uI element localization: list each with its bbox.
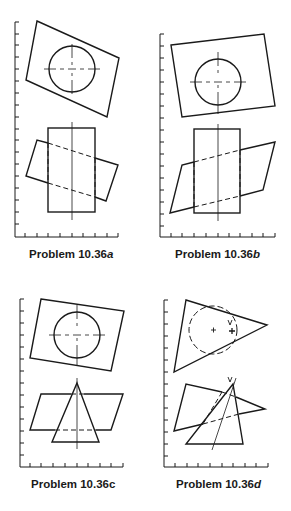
- panel-b-front-view: [170, 124, 275, 221]
- panel-b: [160, 34, 275, 237]
- panel-a-front-view: [26, 122, 118, 220]
- caption-c: Problem 10.36c: [31, 478, 115, 490]
- panel-d-axes: [164, 300, 268, 467]
- caption-c-prefix: Problem 10.36: [31, 478, 109, 490]
- panel-d: [164, 300, 268, 467]
- panel-a-top-view: [26, 21, 119, 117]
- panel-b-top-view: [171, 34, 275, 117]
- panel-c: [20, 299, 124, 467]
- panel-d-front-view: [174, 377, 265, 450]
- apex-label-v-front: [228, 377, 232, 382]
- caption-d: Problem 10.36d: [176, 478, 261, 490]
- panel-a: [15, 21, 119, 237]
- panel-c-top-view: [30, 299, 124, 371]
- panel-d-top-view: [174, 300, 267, 372]
- caption-c-suffix: c: [109, 478, 115, 490]
- apex-label-v: [228, 320, 232, 325]
- panel-c-front-view: [30, 378, 123, 449]
- apex-mark-icon: [229, 328, 235, 334]
- caption-a: Problem 10.36a: [29, 248, 113, 260]
- caption-b-prefix: Problem 10.36: [175, 248, 253, 260]
- caption-a-suffix: a: [107, 248, 113, 260]
- panel-b-axes: [160, 34, 275, 237]
- caption-d-prefix: Problem 10.36: [176, 478, 254, 490]
- caption-b: Problem 10.36b: [175, 248, 260, 260]
- caption-a-prefix: Problem 10.36: [29, 248, 107, 260]
- caption-b-suffix: b: [253, 248, 260, 260]
- center-mark-icon: [211, 328, 216, 333]
- caption-d-suffix: d: [254, 478, 261, 490]
